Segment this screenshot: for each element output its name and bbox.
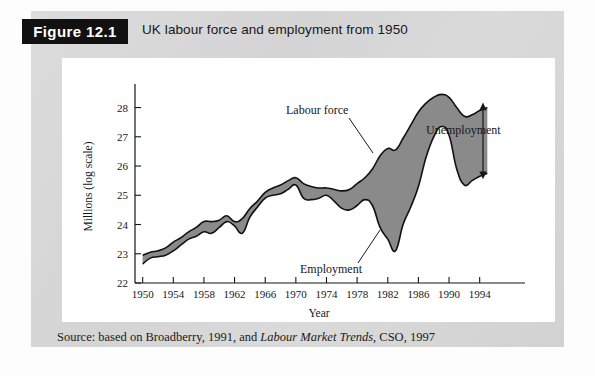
labour-force-leader-line: [349, 118, 373, 153]
x-tick-label: 1986: [407, 288, 430, 300]
y-tick-label: 27: [117, 131, 129, 143]
source-italic-title: Labour Market Trends: [260, 330, 373, 344]
x-tick-label: 1994: [469, 288, 492, 300]
y-axis-title: Millions (log scale): [82, 141, 95, 231]
y-tick-label: 24: [117, 219, 129, 231]
figure-number-tab: Figure 12.1: [22, 19, 128, 44]
unemployment-arrow-head-top: [479, 103, 486, 111]
employment-annotation-label: Employment: [300, 262, 363, 276]
source-note: Source: based on Broadberry, 1991, and L…: [57, 330, 435, 345]
unemployment-annotation-label: Unemployment: [426, 123, 501, 137]
y-tick-label: 25: [117, 189, 129, 201]
y-tick-label: 23: [117, 248, 129, 260]
x-tick-label: 1966: [254, 288, 277, 300]
source-suffix: , CSO, 1997: [373, 330, 435, 344]
x-axis-title: Year: [308, 307, 329, 319]
y-tick-label: 26: [117, 160, 129, 172]
x-tick-label: 1950: [132, 288, 155, 300]
x-tick-label: 1974: [315, 288, 338, 300]
x-tick-label: 1954: [162, 288, 185, 300]
y-tick-label: 22: [117, 277, 128, 289]
x-tick-label: 1982: [377, 288, 399, 300]
plot-card: 2223242526272819501954195819621966197019…: [62, 58, 555, 322]
x-tick-label: 1990: [438, 288, 461, 300]
chart-svg: 2223242526272819501954195819621966197019…: [62, 58, 555, 322]
labour-force-annotation-label: Labour force: [286, 103, 348, 117]
unemployment-gap-band: [143, 94, 488, 264]
source-prefix: Source: based on Broadberry, 1991, and: [57, 330, 260, 344]
figure-root: Figure 12.1 UK labour force and employme…: [0, 0, 595, 376]
y-tick-label: 28: [117, 102, 129, 114]
figure-title: UK labour force and employment from 1950: [142, 22, 408, 37]
x-tick-label: 1958: [193, 288, 216, 300]
x-tick-label: 1978: [346, 288, 369, 300]
x-tick-label: 1962: [224, 288, 246, 300]
x-tick-label: 1970: [285, 288, 308, 300]
employment-leader-line: [358, 230, 380, 263]
